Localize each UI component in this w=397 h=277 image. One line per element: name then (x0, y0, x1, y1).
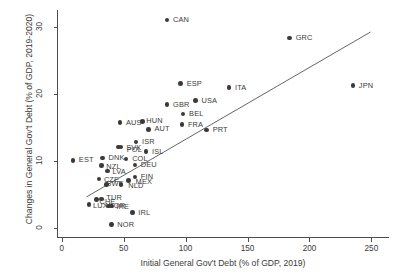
data-point-label: ISR (142, 138, 155, 145)
data-point-label: IRL (138, 209, 150, 216)
y-tick-mark (54, 161, 58, 162)
x-tick-mark (309, 238, 310, 242)
data-point-label: JPN (359, 82, 373, 89)
data-point (116, 145, 121, 150)
data-point-label: POL (127, 146, 142, 153)
x-tick-mark (371, 238, 372, 242)
data-point-label: USA (202, 97, 218, 104)
y-tick-mark (54, 228, 58, 229)
data-point (181, 112, 186, 117)
x-tick-label: 200 (294, 244, 324, 253)
data-point-label: NOR (117, 221, 134, 228)
x-tick-label: 150 (233, 244, 263, 253)
x-tick-label: 50 (109, 244, 139, 253)
data-point (180, 122, 185, 127)
y-tick-label: 20 (35, 83, 44, 103)
data-point (100, 156, 105, 161)
data-point (146, 127, 151, 132)
data-point (287, 36, 292, 41)
data-point (109, 222, 114, 227)
plot-area: CANGRCESPITAJPNGBRUSABELAUSHUNFRAAUTPRTI… (57, 10, 389, 238)
y-tick-mark (54, 27, 58, 28)
data-point (165, 18, 170, 23)
x-tick-mark (124, 238, 125, 242)
data-point-label: ITA (235, 84, 246, 91)
scatter-chart-figure: Changes in General Gov't Debt (% of GDP,… (0, 0, 397, 277)
data-point (118, 120, 123, 125)
data-point-label: AUT (154, 126, 169, 133)
data-points-layer: CANGRCESPITAJPNGBRUSABELAUSHUNFRAAUTPRTI… (58, 10, 389, 237)
y-tick-mark (54, 94, 58, 95)
data-point-label: GRC (296, 34, 313, 41)
data-point-label: ISL (152, 149, 164, 156)
y-tick-label: 0 (35, 217, 44, 237)
data-point-label: ESP (187, 80, 202, 87)
x-tick-mark (186, 238, 187, 242)
data-point (193, 98, 198, 103)
data-point-label: NLD (128, 183, 143, 190)
data-point (140, 119, 145, 124)
x-tick-mark (248, 238, 249, 242)
x-tick-label: 250 (356, 244, 386, 253)
x-tick-label: 100 (171, 244, 201, 253)
data-point (165, 102, 170, 107)
x-tick-label: 0 (47, 244, 77, 253)
data-point (99, 163, 104, 168)
data-point (124, 157, 129, 162)
y-tick-label: 10 (35, 150, 44, 170)
data-point (351, 83, 356, 88)
data-point (105, 169, 110, 174)
data-point-label: BEL (189, 110, 203, 117)
data-point (133, 163, 138, 168)
data-point-label: GBR (173, 101, 189, 108)
y-axis-title: Changes in General Gov't Debt (% of GDP,… (24, 0, 34, 244)
data-point (227, 85, 232, 90)
data-point (97, 177, 102, 182)
y-tick-label: 30 (35, 16, 44, 36)
x-axis-title: Initial General Gov't Debt (% of GDP, 20… (57, 258, 389, 268)
data-point-label: FRA (188, 121, 203, 128)
data-point-label: PRT (213, 126, 228, 133)
data-point-label: DEU (141, 161, 157, 168)
data-point (204, 128, 209, 133)
data-point (178, 81, 183, 86)
data-point-label: KOR (109, 202, 125, 209)
data-point (144, 149, 149, 154)
data-point (130, 210, 135, 215)
data-point-label: SWE (106, 181, 123, 188)
data-point-label: EST (79, 157, 94, 164)
data-point (71, 158, 76, 163)
data-point-label: DNK (109, 154, 125, 161)
x-tick-mark (62, 238, 63, 242)
data-point-label: CAN (173, 16, 189, 23)
data-point (87, 202, 92, 207)
